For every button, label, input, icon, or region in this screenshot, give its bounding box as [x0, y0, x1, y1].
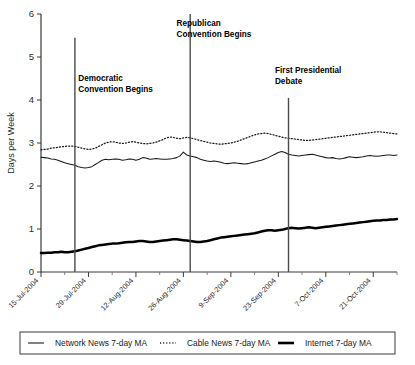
series-cable-news-7-day-ma [41, 132, 397, 150]
x-tick-label: 12-Aug-2004 [99, 276, 136, 313]
y-tick-label: 2 [29, 180, 34, 191]
y-tick-label: 4 [29, 94, 34, 105]
x-tick-label: 21-Oct-2004 [337, 276, 372, 311]
series-network-news-7-day-ma [41, 152, 397, 168]
x-tick-label: 26-Aug-2004 [146, 276, 183, 313]
legend-item-label: Cable News 7-day MA [187, 338, 271, 348]
x-tick-label: 29-Jul-2004 [54, 276, 88, 310]
y-tick-label: 3 [29, 137, 34, 148]
annotation-label: Convention Begins [78, 85, 153, 94]
annotation-label: Convention Begins [177, 30, 252, 39]
line-chart: 0123456Days per Week15-Jul-200429-Jul-20… [0, 0, 415, 365]
y-tick-label: 1 [29, 223, 34, 234]
annotation-label: First Presidential [275, 66, 341, 75]
y-tick-label: 5 [29, 51, 34, 62]
x-tick-label: 9-Sep-2004 [197, 276, 231, 310]
legend-item-label: Network News 7-day MA [55, 338, 148, 348]
x-tick-label: 15-Jul-2004 [6, 276, 40, 310]
x-tick-label: 23-Sep-2004 [241, 276, 278, 313]
chart-container: 0123456Days per Week15-Jul-200429-Jul-20… [0, 0, 415, 365]
series-internet-7-day-ma [41, 219, 397, 253]
legend-item-label: Internet 7-day MA [305, 338, 372, 348]
annotation-label: Debate [275, 77, 303, 86]
y-axis-label: Days per Week [6, 112, 16, 174]
annotation-label: Republican [177, 19, 221, 28]
chart-axes [41, 14, 397, 272]
x-tick-label: 7-Oct-2004 [293, 276, 326, 309]
y-tick-label: 6 [29, 8, 34, 19]
annotation-label: Democratic [78, 74, 123, 83]
